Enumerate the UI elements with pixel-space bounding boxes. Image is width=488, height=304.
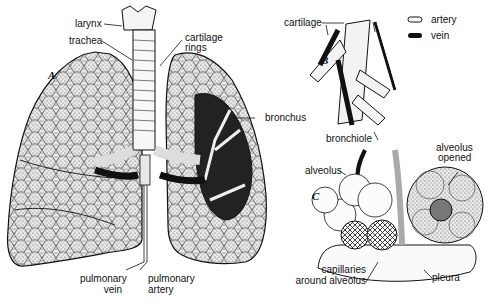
label-pulmonary-vein-2: vein: [80, 285, 122, 295]
label-capillaries-1: capillaries: [290, 265, 366, 275]
label-bronchiole: bronchiole: [326, 134, 372, 144]
panel-label-b: B: [321, 54, 328, 66]
label-pulmonary-vein-1: pulmonary: [80, 274, 122, 284]
legend-swatches: [408, 17, 422, 38]
legend-vein: vein: [431, 31, 449, 41]
legend-artery: artery: [431, 15, 457, 25]
label-alveolus: alveolus: [305, 166, 342, 176]
panel-label-c: C: [312, 190, 319, 202]
label-capillaries-2: around alveolus: [270, 276, 366, 286]
label-trachea: trachea: [69, 36, 102, 46]
panel-label-a: A: [48, 69, 55, 81]
label-pulmonary-artery-1: pulmonary: [148, 274, 195, 284]
label-pleura: pleura: [432, 273, 460, 283]
label-pulmonary-artery-2: artery: [148, 285, 174, 295]
label-alveolus-opened-2: opened: [438, 153, 471, 163]
label-cartilage-rings-2: rings: [185, 43, 207, 53]
bronchi-detail: [310, 20, 397, 125]
label-bronchus: bronchus: [265, 113, 306, 123]
label-cartilage: cartilage: [284, 18, 322, 28]
label-larynx: larynx: [75, 19, 102, 29]
